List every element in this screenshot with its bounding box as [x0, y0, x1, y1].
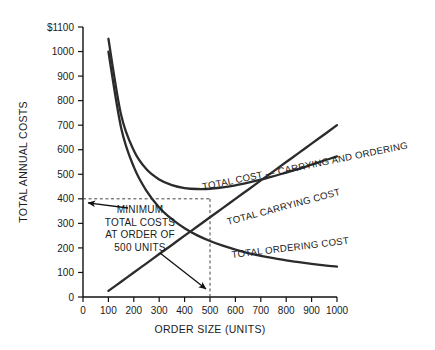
x-tick-label-1000: 1000 — [326, 305, 349, 316]
x-tick-label-400: 400 — [176, 305, 193, 316]
x-axis-title: ORDER SIZE (UNITS) — [155, 323, 266, 335]
eoq-cost-chart: 01002003004005006007008009001000$1100 01… — [0, 0, 435, 350]
annotation-line-3: 500 UNITS — [114, 242, 165, 253]
total-ordering-cost-label: TOTAL ORDERING COST — [231, 235, 350, 260]
y-tick-label-700: 700 — [57, 120, 74, 131]
x-tick-label-600: 600 — [227, 305, 244, 316]
annotation-line-0: MINIMUM — [117, 204, 163, 215]
y-tick-label-800: 800 — [57, 95, 74, 106]
y-tick-label-600: 600 — [57, 144, 74, 155]
x-tick-label-700: 700 — [252, 305, 269, 316]
annotation-line-2: AT ORDER OF — [105, 229, 175, 240]
x-tick-label-900: 900 — [303, 305, 320, 316]
y-tick-label-0: 0 — [68, 292, 74, 303]
x-tick-label-300: 300 — [151, 305, 168, 316]
y-tick-label-1100: $1100 — [47, 22, 75, 33]
x-tick-label-200: 200 — [125, 305, 142, 316]
x-axis-tick-labels: 01002003004005006007008009001000 — [80, 305, 348, 316]
x-tick-label-100: 100 — [100, 305, 117, 316]
y-tick-label-500: 500 — [57, 169, 74, 180]
annotation-line-1: TOTAL COSTS — [105, 217, 175, 228]
y-axis-ticks — [78, 27, 83, 297]
y-tick-label-200: 200 — [57, 243, 74, 254]
y-axis-title: TOTAL ANNUAL COSTS — [17, 101, 29, 223]
y-tick-label-1000: 1000 — [52, 46, 75, 57]
x-axis-ticks — [83, 297, 337, 302]
chart-canvas: 01002003004005006007008009001000$1100 01… — [0, 0, 435, 350]
annotation-arrow-to-x-axis — [160, 253, 206, 289]
minimum-total-costs-note: MINIMUMTOTAL COSTSAT ORDER OF500 UNITS — [105, 204, 175, 253]
x-tick-label-500: 500 — [202, 305, 219, 316]
x-tick-label-800: 800 — [278, 305, 295, 316]
minimum-cost-annotation: MINIMUMTOTAL COSTSAT ORDER OF500 UNITS — [88, 203, 206, 289]
y-tick-label-100: 100 — [57, 267, 74, 278]
y-axis-tick-labels: 01002003004005006007008009001000$1100 — [47, 22, 75, 303]
y-tick-label-400: 400 — [57, 193, 74, 204]
y-tick-label-900: 900 — [57, 71, 74, 82]
y-tick-label-300: 300 — [57, 218, 74, 229]
x-tick-label-0: 0 — [80, 305, 86, 316]
